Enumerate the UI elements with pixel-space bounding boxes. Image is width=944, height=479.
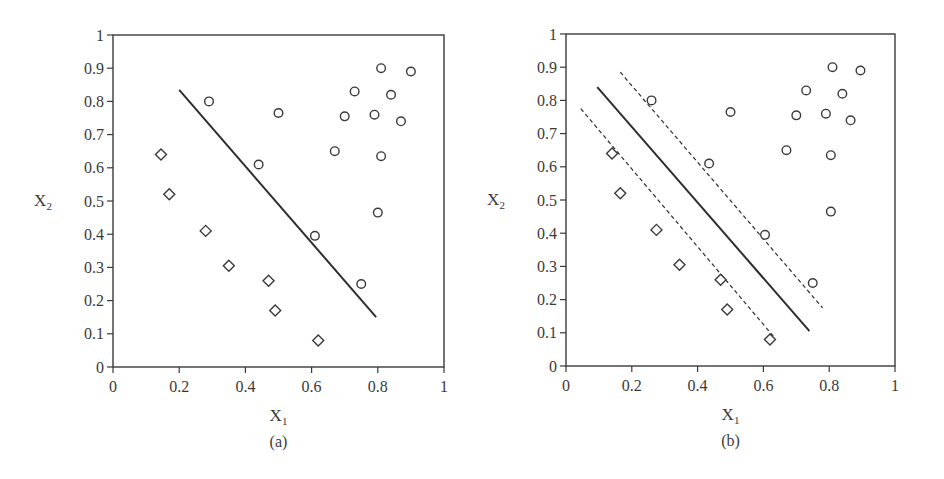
figure: 00.10.20.30.40.50.60.70.80.9100.20.40.60… [0, 0, 944, 479]
lower-margin [581, 109, 773, 336]
circle-marker [828, 63, 837, 72]
diamond-marker [200, 225, 211, 236]
y-tick-label: 0.7 [84, 126, 104, 143]
panel-b-scatter-plot: 00.10.20.30.40.50.60.70.80.9100.20.40.60… [487, 26, 899, 451]
diamond-marker [722, 304, 733, 315]
separating-hyperplane [597, 87, 809, 331]
y-tick-label: 0.5 [84, 193, 104, 210]
y-tick-label: 0.4 [537, 225, 557, 242]
x-tick-label: 0 [562, 377, 570, 394]
x-tick-label: 0.6 [302, 378, 322, 395]
circle-marker [387, 90, 396, 99]
x-tick-label: 0.8 [368, 378, 388, 395]
circle-marker [802, 86, 811, 95]
diamond-marker [651, 224, 662, 235]
circle-marker [330, 147, 339, 156]
y-tick-label: 0.4 [84, 226, 104, 243]
x-tick-label: 0.6 [753, 377, 773, 394]
y-tick-label: 0.5 [537, 192, 557, 209]
circle-marker [407, 67, 416, 76]
diamond-marker [155, 149, 166, 160]
y-axis-label: X2 [487, 190, 505, 211]
diamond-marker [270, 305, 281, 316]
upper-margin [620, 72, 822, 308]
y-tick-label: 0.3 [84, 259, 104, 276]
y-tick-label: 0.6 [537, 158, 557, 175]
y-tick-label: 1 [549, 26, 557, 43]
circle-marker [856, 66, 865, 75]
y-tick-label: 0.2 [537, 291, 557, 308]
circle-marker [254, 160, 263, 169]
y-tick-label: 0.7 [537, 125, 557, 142]
circle-marker [377, 64, 386, 73]
circle-marker [726, 108, 735, 117]
diamond-marker [715, 274, 726, 285]
circle-marker [838, 89, 847, 98]
y-tick-label: 0 [96, 359, 104, 376]
y-tick-label: 0.2 [84, 292, 104, 309]
diamond-marker [615, 188, 626, 199]
circle-marker [761, 231, 770, 240]
diamond-marker [164, 189, 175, 200]
diamond-marker [263, 275, 274, 286]
y-tick-label: 0.8 [84, 93, 104, 110]
diamond-marker [607, 148, 618, 159]
circle-marker [205, 97, 214, 106]
x-tick-label: 0.4 [688, 377, 708, 394]
x-tick-label: 0.2 [622, 377, 642, 394]
circle-marker [792, 111, 801, 120]
circle-marker [374, 208, 383, 217]
x-tick-label: 0 [109, 378, 117, 395]
circle-marker [822, 109, 831, 118]
circle-marker [370, 110, 379, 119]
x-axis-label: X1 [722, 405, 740, 426]
separating-line [179, 90, 376, 317]
panel-a-scatter-plot: 00.10.20.30.40.50.60.70.80.9100.20.40.60… [34, 27, 448, 452]
diamond-marker [223, 260, 234, 271]
y-tick-label: 0.9 [537, 59, 557, 76]
circle-marker [340, 112, 349, 121]
circle-marker [357, 280, 366, 289]
y-tick-label: 0 [549, 358, 557, 375]
y-tick-label: 0.1 [84, 325, 104, 342]
panel-caption: (b) [721, 432, 740, 450]
circle-marker [311, 232, 320, 241]
y-tick-label: 0.6 [84, 159, 104, 176]
circle-marker [274, 109, 283, 118]
circle-marker [377, 152, 386, 161]
panel-caption: (a) [270, 433, 288, 451]
circle-marker [705, 159, 714, 168]
x-tick-label: 1 [440, 378, 448, 395]
x-tick-label: 0.8 [819, 377, 839, 394]
y-axis-label: X2 [34, 191, 52, 212]
y-tick-label: 0.3 [537, 258, 557, 275]
circle-marker [846, 116, 855, 125]
y-tick-label: 0.8 [537, 92, 557, 109]
circle-marker [827, 207, 836, 216]
x-axis-label: X1 [270, 406, 288, 427]
y-tick-label: 0.1 [537, 324, 557, 341]
y-tick-label: 1 [96, 27, 104, 44]
plot-frame [113, 35, 444, 367]
circle-marker [827, 151, 836, 160]
diamond-marker [674, 259, 685, 270]
x-tick-label: 1 [891, 377, 899, 394]
diamond-marker [764, 334, 775, 345]
diamond-marker [313, 335, 324, 346]
y-tick-label: 0.9 [84, 60, 104, 77]
circle-marker [350, 87, 359, 96]
x-tick-label: 0.4 [235, 378, 255, 395]
x-tick-label: 0.2 [169, 378, 189, 395]
circle-marker [782, 146, 791, 155]
circle-marker [397, 117, 406, 126]
circle-marker [647, 96, 656, 105]
circle-marker [808, 279, 817, 288]
